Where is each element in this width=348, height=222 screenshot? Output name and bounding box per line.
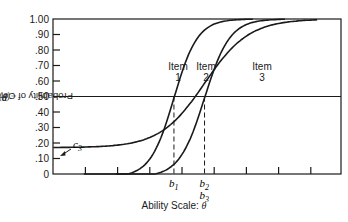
b1-label: b1 [169,177,179,192]
x-axis-label: Ability Scale: θ [0,200,348,211]
c3-label: c3 [73,138,82,153]
y-tick-label: .90 [35,29,49,40]
item-number-2: 2 [203,72,209,83]
y-tick-label: 1.00 [30,14,50,25]
difficulty-markers [174,97,205,175]
c3-arrowhead [60,151,66,156]
y-tick-label: .80 [35,45,49,56]
x-axis-ticks [85,167,310,174]
y-tick-label: .20 [35,138,49,149]
y-tick-label: 0 [43,169,49,180]
plot-area [53,19,341,174]
y-tick-label: .70 [35,60,49,71]
icc-chart: 0.10.20.30.40.50.60.70.80.901.00 Item1It… [0,0,348,222]
y-tick-label: .10 [35,153,49,164]
item-number-1: 1 [175,72,181,83]
curve-labels: Item1Item2Item3c3b1b2b3 [60,61,272,204]
curve-item-3 [53,20,317,148]
item-label-1: Item [168,61,187,72]
item-label-3: Item [252,61,271,72]
y-axis-arg: (θ) [0,92,10,102]
y-tick-label: .30 [35,122,49,133]
item-label-2: Item [196,61,215,72]
item-number-3: 3 [259,72,265,83]
y-tick-label: .40 [35,107,49,118]
y-tick-label: .60 [35,76,49,87]
x-axis-label-text: Ability Scale: [142,200,202,211]
x-axis-symbol: θ [202,200,207,211]
y-axis-label-text: Probability of Correct Response: [0,91,73,102]
